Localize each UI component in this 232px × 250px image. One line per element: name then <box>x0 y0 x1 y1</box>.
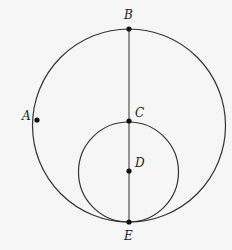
geometry-diagram: BACDE <box>0 0 232 250</box>
point-label-a: A <box>21 109 31 123</box>
point-e <box>126 219 131 224</box>
point-label-d: D <box>134 156 145 170</box>
point-b <box>126 26 131 31</box>
point-label-e: E <box>123 229 133 243</box>
point-label-c: C <box>135 106 144 120</box>
point-label-b: B <box>123 8 133 22</box>
point-d <box>126 168 131 173</box>
point-a <box>34 117 39 122</box>
points-layer: BACDE <box>21 8 145 243</box>
point-c <box>126 118 131 123</box>
